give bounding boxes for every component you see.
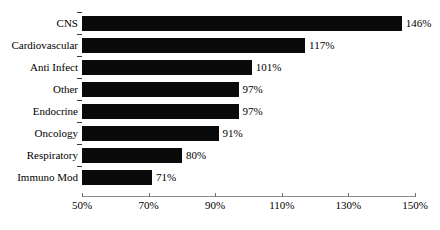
bar-row: Anti Infect101%: [82, 56, 415, 78]
bar-row: Immuno Mod71%: [82, 166, 415, 188]
bar: [82, 82, 239, 97]
horizontal-bar-chart: CNS146%Cardiovascular117%Anti Infect101%…: [0, 0, 440, 230]
bar-row: Oncology91%: [82, 122, 415, 144]
bar-row: Cardiovascular117%: [82, 34, 415, 56]
x-axis-tick: [82, 193, 83, 197]
bar-value-label: 101%: [256, 60, 282, 75]
category-label: Anti Infect: [30, 56, 78, 78]
bar-value-label: 71%: [156, 170, 176, 185]
bar-value-label: 91%: [223, 126, 243, 141]
bar-value-label: 146%: [406, 16, 432, 31]
bar-value-label: 117%: [309, 38, 334, 53]
bar: [82, 104, 239, 119]
category-label: Cardiovascular: [11, 34, 78, 56]
bar: [82, 148, 182, 163]
category-label: Oncology: [35, 122, 78, 144]
x-axis-tick-label: 50%: [72, 199, 92, 211]
category-label: Endocrine: [33, 100, 78, 122]
bar-value-label: 97%: [243, 104, 263, 119]
bar-row: CNS146%: [82, 12, 415, 34]
x-axis-line: [82, 196, 415, 197]
x-axis-tick: [415, 193, 416, 197]
category-label: CNS: [57, 12, 78, 34]
x-axis-tick-label: 130%: [336, 199, 362, 211]
x-axis-tick: [215, 193, 216, 197]
bar: [82, 38, 305, 53]
category-label: Other: [53, 78, 78, 100]
x-axis-tick: [282, 193, 283, 197]
bar: [82, 16, 402, 31]
x-axis-tick-label: 70%: [139, 199, 159, 211]
bar-row: Endocrine97%: [82, 100, 415, 122]
category-label: Respiratory: [27, 144, 78, 166]
bar-value-label: 97%: [243, 82, 263, 97]
x-axis-tick-label: 90%: [205, 199, 225, 211]
x-axis-tick: [348, 193, 349, 197]
bar: [82, 170, 152, 185]
bar-value-label: 80%: [186, 148, 206, 163]
x-axis-tick-label: 110%: [269, 199, 294, 211]
bar-row: Other97%: [82, 78, 415, 100]
x-axis-tick: [149, 193, 150, 197]
x-axis-tick-label: 150%: [402, 199, 428, 211]
plot-area: CNS146%Cardiovascular117%Anti Infect101%…: [82, 12, 415, 196]
bar: [82, 126, 219, 141]
category-label: Immuno Mod: [17, 166, 78, 188]
bar: [82, 60, 252, 75]
bar-row: Respiratory80%: [82, 144, 415, 166]
